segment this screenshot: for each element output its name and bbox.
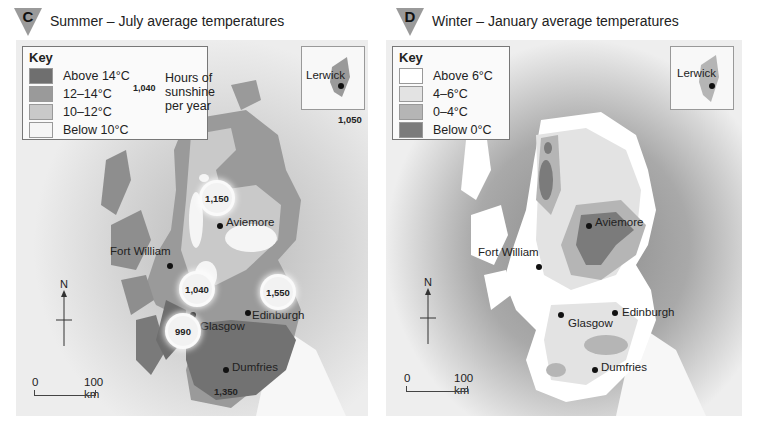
place-label-fort-william: Fort William [478,246,539,258]
north-arrow-icon [418,288,438,344]
key-swatch [29,104,53,120]
panel-header: C Summer – July average temperatures [14,10,284,32]
town-dot [338,83,344,89]
sunshine-key-sample: 1,040 [133,83,156,93]
sunshine-value-lerwick: 1,050 [338,114,362,125]
panel-badge: D [396,6,424,36]
sun-icon-marker: 990 [168,316,198,346]
place-label-edinburgh: Edinburgh [622,306,674,318]
town-dot [586,223,592,229]
winter-map-panel: D Winter – January average temperatures [382,0,764,437]
key-item: Below 0°C [399,121,503,139]
place-label-aviemore: Aviemore [595,216,643,228]
scale-line [406,386,468,392]
winter-key: Key Above 6°C 4–6°C 0–4°C Below 0°C [392,46,510,140]
place-label-lerwick: Lerwick [306,69,345,81]
town-dot [536,264,542,270]
sun-icon-marker: 1,550 [263,277,293,307]
key-item: 4–6°C [399,85,503,103]
key-swatch [399,68,423,84]
panel-header: D Winter – January average temperatures [396,10,679,32]
key-swatch [29,68,53,84]
place-label-dumfries: Dumfries [232,361,278,373]
badge-letter: C [14,8,42,25]
key-item: 0–4°C [399,103,503,121]
town-dot [558,312,564,318]
town-dot [223,367,229,373]
key-swatch [399,122,423,138]
winter-map: Key Above 6°C 4–6°C 0–4°C Below 0°C Lerw… [386,40,742,416]
key-title: Key [29,50,201,65]
north-arrow: N [418,276,438,346]
summer-map: Key Above 14°C 12–14°C 10–12°C Below 10°… [16,40,368,416]
sun-icon-marker: 1,150 [202,183,232,213]
place-label-glasgow: Glasgow [568,317,613,329]
key-item: Above 6°C [399,67,503,85]
panel-title: Winter – January average temperatures [432,13,679,29]
key-swatch [29,86,53,102]
sunshine-key-label: Hours of sunshine per year [165,71,215,113]
town-dot [612,310,618,316]
sunshine-value-dumfries: 1,350 [214,386,238,397]
shetland-inset: Lerwick [301,46,365,110]
north-arrow: N [54,278,74,348]
town-dot [167,263,173,269]
key-title: Key [399,50,503,65]
summer-key: Key Above 14°C 12–14°C 10–12°C Below 10°… [22,46,208,140]
scale-line [34,390,96,396]
place-label-fort-william: Fort William [110,245,171,257]
key-item: Below 10°C [29,121,201,139]
panel-badge: C [14,6,42,36]
shetland-inset: Lerwick [670,46,734,110]
north-arrow-icon [54,290,74,346]
town-dot [217,223,223,229]
panel-title: Summer – July average temperatures [50,13,284,29]
town-dot [709,83,715,89]
town-dot [245,310,251,316]
badge-letter: D [396,8,424,25]
town-dot [190,312,196,318]
place-label-dumfries: Dumfries [601,361,647,373]
town-dot [592,367,598,373]
sun-icon-marker: 1,040 [182,274,212,304]
key-swatch [29,122,53,138]
key-swatch [399,104,423,120]
summer-map-panel: C Summer – July average temperatures [0,0,382,437]
place-label-lerwick: Lerwick [677,67,716,79]
key-swatch [399,86,423,102]
place-label-glasgow: Glasgow [200,320,245,332]
place-label-edinburgh: Edinburgh [252,309,304,321]
place-label-aviemore: Aviemore [226,216,274,228]
